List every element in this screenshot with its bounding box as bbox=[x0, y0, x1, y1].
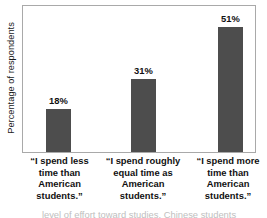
bar-value-label-1: 18% bbox=[49, 96, 68, 106]
x-tick-label-2: “I spend roughly equal time as American … bbox=[98, 155, 188, 201]
x-tick-label-2-line-4: students.” bbox=[98, 190, 188, 202]
x-tick-label-3: “I spend more time than American student… bbox=[188, 155, 267, 201]
plot-area: 18% 31% 51% bbox=[22, 5, 256, 153]
bar-slot-3: 51% bbox=[218, 6, 243, 152]
clipped-caption-text: level of effort toward studies, Chinese … bbox=[22, 209, 256, 218]
bar-3[interactable] bbox=[218, 27, 243, 152]
x-tick-label-1: “I spend less time than American student… bbox=[17, 155, 102, 201]
bar-value-label-3: 51% bbox=[221, 14, 240, 24]
x-tick-label-1-line-2: time than bbox=[17, 167, 102, 179]
x-tick-label-2-line-1: “I spend roughly bbox=[98, 155, 188, 167]
y-axis-title: Percentage of respondents bbox=[6, 22, 16, 134]
x-tick-label-1-line-4: students.” bbox=[17, 190, 102, 202]
x-tick-label-3-line-3: American bbox=[188, 178, 267, 190]
y-axis-title-area: Percentage of respondents bbox=[0, 0, 22, 156]
x-axis-tick-labels: “I spend less time than American student… bbox=[22, 155, 256, 207]
bar-slot-1: 18% bbox=[46, 6, 71, 152]
x-tick-label-3-line-4: students.” bbox=[188, 190, 267, 202]
bar-1[interactable] bbox=[46, 109, 71, 152]
x-tick-label-3-line-2: time than bbox=[188, 167, 267, 179]
plot-inner: 18% 31% 51% bbox=[23, 6, 255, 152]
bar-value-label-2: 31% bbox=[134, 66, 153, 76]
x-tick-label-2-line-3: American bbox=[98, 178, 188, 190]
x-tick-label-2-line-2: equal time as bbox=[98, 167, 188, 179]
x-tick-label-1-line-3: American bbox=[17, 178, 102, 190]
bar-slot-2: 31% bbox=[131, 6, 156, 152]
clipped-caption-area: level of effort toward studies, Chinese … bbox=[22, 209, 256, 218]
bar-2[interactable] bbox=[131, 79, 156, 152]
x-tick-label-3-line-1: “I spend more bbox=[188, 155, 267, 167]
x-tick-label-1-line-1: “I spend less bbox=[17, 155, 102, 167]
bar-chart-figure: Percentage of respondents 18% 31% 51% “I… bbox=[0, 0, 267, 218]
